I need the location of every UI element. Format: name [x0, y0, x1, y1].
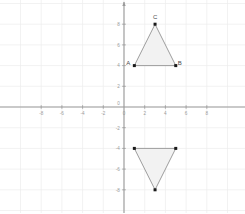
x-tick-label: -8 — [39, 111, 44, 116]
x-tick-label: -6 — [60, 111, 65, 116]
y-tick-label: 4 — [117, 63, 120, 68]
vertex-point — [174, 147, 177, 150]
vertex-point — [133, 147, 136, 150]
x-tick-label: -2 — [101, 111, 106, 116]
vertex-point — [154, 188, 157, 191]
y-tick-label: -4 — [116, 146, 121, 151]
coordinate-plane-svg: -8-6-4-20246886420-2-4-6-8 ABC — [0, 0, 245, 213]
vertex-point — [133, 64, 136, 67]
y-tick-label: 6 — [117, 43, 120, 48]
x-tick-label: 0 — [123, 111, 126, 116]
x-tick-label: 8 — [206, 111, 209, 116]
y-tick-label: -2 — [116, 126, 121, 131]
y-tick-label: -8 — [116, 188, 121, 193]
x-tick-label: 4 — [164, 111, 167, 116]
x-tick-label: 6 — [185, 111, 188, 116]
y-tick-label: -6 — [116, 167, 121, 172]
y-tick-label: 8 — [117, 22, 120, 27]
x-tick-label: -4 — [81, 111, 86, 116]
origin-axis-label: 0 — [117, 101, 120, 106]
coordinate-plane-figure: -8-6-4-20246886420-2-4-6-8 ABC — [0, 0, 245, 213]
x-tick-label: 2 — [143, 111, 146, 116]
axes — [0, 2, 245, 214]
vertex-point — [154, 23, 157, 26]
vertex-label-c: C — [153, 14, 158, 20]
vertex-label-a: A — [126, 60, 130, 66]
vertex-label-b: B — [178, 60, 182, 66]
y-tick-label: 2 — [117, 84, 120, 89]
